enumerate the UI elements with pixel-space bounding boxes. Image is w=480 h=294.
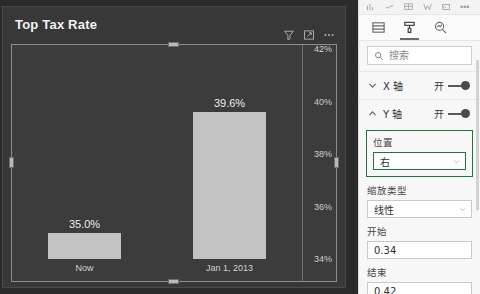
- bar-data-label: 39.6%: [193, 97, 266, 109]
- bar-chart-visual[interactable]: Top Tax Rate: [2, 6, 346, 288]
- start-value: 0.34: [374, 245, 396, 256]
- bar[interactable]: [48, 233, 121, 259]
- panel-tab-strip: [359, 15, 480, 41]
- power-bi-report-view: Top Tax Rate: [0, 0, 480, 294]
- visual-title: Top Tax Rate: [15, 17, 97, 32]
- scale-type-dropdown[interactable]: 线性: [367, 200, 472, 218]
- bar-slot: 35.0%: [48, 49, 121, 259]
- label-start: 开始: [367, 224, 472, 238]
- bar[interactable]: [193, 112, 266, 259]
- end-input[interactable]: 0.42: [367, 282, 472, 294]
- chevron-up-icon[interactable]: [367, 108, 378, 119]
- chevron-down-icon: [459, 206, 466, 213]
- overflow-dots-icon[interactable]: •••: [460, 3, 469, 12]
- visualizations-format-panel: •••: [358, 0, 480, 294]
- y-tick-label: 40%: [314, 97, 332, 107]
- switch-knob: [461, 81, 470, 90]
- x-category-label: Now: [12, 263, 157, 273]
- bar-slot: 39.6%: [193, 49, 266, 259]
- scale-type-field-group: 缩放类型 线性: [359, 177, 480, 218]
- visualization-type-strip: •••: [359, 0, 480, 15]
- toggle-label-x-axis: 开: [434, 78, 444, 93]
- search-section: [359, 41, 480, 71]
- chevron-down-icon: [453, 158, 460, 165]
- toggle-x-axis[interactable]: 开: [434, 78, 470, 93]
- search-icon: [374, 51, 384, 61]
- section-y-axis[interactable]: Y 轴 开: [359, 100, 480, 127]
- y-tick-label: 38%: [314, 149, 332, 159]
- position-value: 右: [380, 154, 390, 169]
- plot-area-selection[interactable]: 42%40%38%36%34% 35.0%39.6% NowJan 1, 201…: [11, 44, 337, 282]
- bar-data-label: 35.0%: [48, 218, 121, 230]
- shape-icon[interactable]: [422, 2, 433, 12]
- focus-mode-icon[interactable]: [303, 29, 315, 41]
- line-icon[interactable]: [384, 2, 395, 12]
- position-field-group: 位置 右: [366, 130, 473, 177]
- end-value: 0.42: [374, 286, 396, 294]
- insert-icon[interactable]: [365, 2, 376, 12]
- y-tick-label: 34%: [314, 254, 332, 264]
- x-axis-category-labels: NowJan 1, 2013: [12, 261, 302, 277]
- table-icon[interactable]: [403, 2, 414, 12]
- position-dropdown[interactable]: 右: [373, 152, 466, 170]
- section-label-x-axis: X 轴: [383, 78, 434, 93]
- panel-scrollbar[interactable]: [476, 60, 479, 210]
- scale-type-value: 线性: [374, 202, 394, 217]
- search-box[interactable]: [367, 46, 472, 65]
- y-tick-label: 36%: [314, 202, 332, 212]
- toggle-y-axis[interactable]: 开: [434, 106, 470, 121]
- toggle-label-y-axis: 开: [434, 106, 444, 121]
- switch-x-axis[interactable]: [448, 81, 470, 91]
- start-field-group: 开始 0.34: [359, 218, 480, 259]
- filter-icon[interactable]: [283, 29, 295, 41]
- more-options-icon[interactable]: [323, 29, 335, 41]
- bars-area: 35.0%39.6%: [12, 49, 302, 259]
- tab-format[interactable]: [402, 15, 417, 41]
- y-tick-label: 42%: [314, 44, 332, 54]
- plot-inner: 42%40%38%36%34% 35.0%39.6% NowJan 1, 201…: [12, 45, 336, 281]
- end-field-group: 结束 0.42: [359, 259, 480, 294]
- report-canvas: Top Tax Rate: [0, 0, 358, 294]
- switch-knob: [461, 109, 470, 118]
- label-scale-type: 缩放类型: [367, 183, 472, 197]
- start-input[interactable]: 0.34: [367, 241, 472, 259]
- label-position: 位置: [373, 135, 466, 149]
- section-label-y-axis: Y 轴: [383, 106, 434, 121]
- tab-fields[interactable]: [371, 15, 386, 41]
- visual-header-icons: [283, 29, 335, 41]
- x-category-label: Jan 1, 2013: [157, 263, 302, 273]
- chevron-down-icon[interactable]: [367, 80, 378, 91]
- y-axis-line: [302, 45, 303, 281]
- label-end: 结束: [367, 265, 472, 279]
- switch-y-axis[interactable]: [448, 109, 470, 119]
- tab-analytics[interactable]: [433, 15, 448, 41]
- section-x-axis[interactable]: X 轴 开: [359, 72, 480, 99]
- image-icon[interactable]: [441, 2, 452, 12]
- search-input[interactable]: [389, 50, 465, 61]
